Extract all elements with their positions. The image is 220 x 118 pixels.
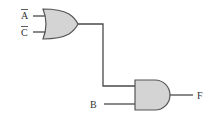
- input-c-label: C: [21, 27, 28, 38]
- input-b-label: B: [90, 99, 97, 110]
- input-b: B: [90, 99, 135, 110]
- and-gate: [135, 80, 170, 110]
- input-a-label: A: [21, 10, 29, 21]
- or-gate: [43, 9, 78, 39]
- output-f-label: F: [197, 90, 203, 101]
- wire-or-to-and: [78, 24, 135, 86]
- logic-diagram: A C B F: [0, 0, 220, 118]
